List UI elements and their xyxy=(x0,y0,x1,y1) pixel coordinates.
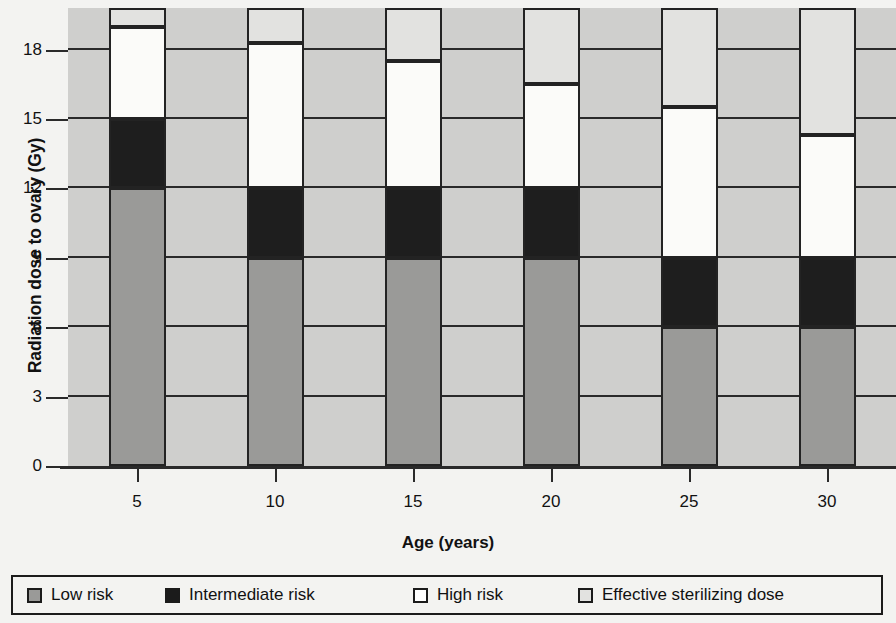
legend-swatch-int-icon xyxy=(165,588,180,603)
gridline xyxy=(68,117,896,119)
legend-label: Low risk xyxy=(51,585,113,605)
y-tick-mark xyxy=(46,119,68,121)
bar-segment-esd[interactable] xyxy=(385,8,442,61)
x-axis-line xyxy=(60,466,896,469)
x-tick-label: 5 xyxy=(107,492,167,512)
x-tick-mark xyxy=(551,469,553,482)
x-tick-mark xyxy=(413,469,415,482)
bar-15[interactable] xyxy=(385,8,442,466)
chart-figure: Radiation dose to ovary (Gy) 0369121518 … xyxy=(0,0,896,623)
x-tick-label: 10 xyxy=(245,492,305,512)
bar-segment-esd[interactable] xyxy=(523,8,580,84)
bar-segment-low[interactable] xyxy=(385,258,442,466)
background-band xyxy=(482,8,523,466)
gridline xyxy=(68,48,896,50)
bar-segment-high[interactable] xyxy=(247,43,304,189)
background-band xyxy=(856,8,896,466)
bar-segment-int[interactable] xyxy=(109,119,166,188)
bar-segment-high[interactable] xyxy=(799,135,856,258)
bar-20[interactable] xyxy=(523,8,580,466)
legend-swatch-high-icon xyxy=(413,588,428,603)
legend-swatch-low-icon xyxy=(27,588,42,603)
x-axis-title: Age (years) xyxy=(0,533,896,553)
y-tick-label: 15 xyxy=(0,109,42,129)
background-band xyxy=(304,8,345,466)
gridline xyxy=(68,325,896,327)
y-tick-label: 18 xyxy=(0,40,42,60)
gridline xyxy=(68,256,896,258)
gridline xyxy=(68,395,896,397)
background-band xyxy=(166,8,207,466)
bar-segment-low[interactable] xyxy=(247,258,304,466)
legend-item-high[interactable]: High risk xyxy=(413,585,503,605)
chart-legend: Low riskIntermediate riskHigh riskEffect… xyxy=(11,575,883,615)
bar-segment-low[interactable] xyxy=(109,188,166,466)
x-tick-mark xyxy=(275,469,277,482)
bar-segment-esd[interactable] xyxy=(799,8,856,135)
legend-item-esd[interactable]: Effective sterilizing dose xyxy=(578,585,784,605)
legend-swatch-esd-icon xyxy=(578,588,593,603)
background-band xyxy=(442,8,483,466)
bar-segment-high[interactable] xyxy=(109,27,166,120)
bar-segment-int[interactable] xyxy=(799,258,856,327)
bar-segment-int[interactable] xyxy=(661,258,718,327)
x-tick-label: 20 xyxy=(521,492,581,512)
y-tick-mark xyxy=(46,397,68,399)
y-tick-label: 6 xyxy=(0,317,42,337)
y-tick-mark xyxy=(46,188,68,190)
x-tick-mark xyxy=(689,469,691,482)
gridline xyxy=(68,186,896,188)
background-band xyxy=(580,8,621,466)
plot-area xyxy=(68,8,896,466)
bar-5[interactable] xyxy=(109,8,166,466)
bar-segment-low[interactable] xyxy=(661,327,718,466)
y-tick-label: 0 xyxy=(0,456,42,476)
bar-segment-int[interactable] xyxy=(247,188,304,257)
x-tick-mark xyxy=(137,469,139,482)
legend-label: High risk xyxy=(437,585,503,605)
background-band xyxy=(758,8,799,466)
bar-25[interactable] xyxy=(661,8,718,466)
bar-segment-esd[interactable] xyxy=(661,8,718,107)
legend-item-int[interactable]: Intermediate risk xyxy=(165,585,315,605)
bar-segment-int[interactable] xyxy=(385,188,442,257)
background-band xyxy=(206,8,247,466)
bar-segment-high[interactable] xyxy=(523,84,580,188)
bar-10[interactable] xyxy=(247,8,304,466)
bar-segment-high[interactable] xyxy=(661,107,718,257)
y-tick-mark xyxy=(46,327,68,329)
bar-segment-esd[interactable] xyxy=(109,8,166,27)
x-tick-label: 30 xyxy=(797,492,857,512)
bar-segment-low[interactable] xyxy=(799,327,856,466)
y-tick-label: 12 xyxy=(0,178,42,198)
y-tick-mark xyxy=(46,258,68,260)
bar-30[interactable] xyxy=(799,8,856,466)
bar-segment-low[interactable] xyxy=(523,258,580,466)
background-band xyxy=(68,8,109,466)
y-tick-label: 9 xyxy=(0,248,42,268)
legend-label: Intermediate risk xyxy=(189,585,315,605)
y-tick-label: 3 xyxy=(0,387,42,407)
y-tick-mark xyxy=(46,50,68,52)
bar-segment-high[interactable] xyxy=(385,61,442,188)
x-tick-label: 15 xyxy=(383,492,443,512)
bar-segment-int[interactable] xyxy=(523,188,580,257)
x-tick-label: 25 xyxy=(659,492,719,512)
legend-item-low[interactable]: Low risk xyxy=(27,585,113,605)
bar-segment-esd[interactable] xyxy=(247,8,304,43)
background-band xyxy=(344,8,385,466)
x-tick-mark xyxy=(827,469,829,482)
background-band xyxy=(718,8,759,466)
legend-label: Effective sterilizing dose xyxy=(602,585,784,605)
background-band xyxy=(620,8,661,466)
